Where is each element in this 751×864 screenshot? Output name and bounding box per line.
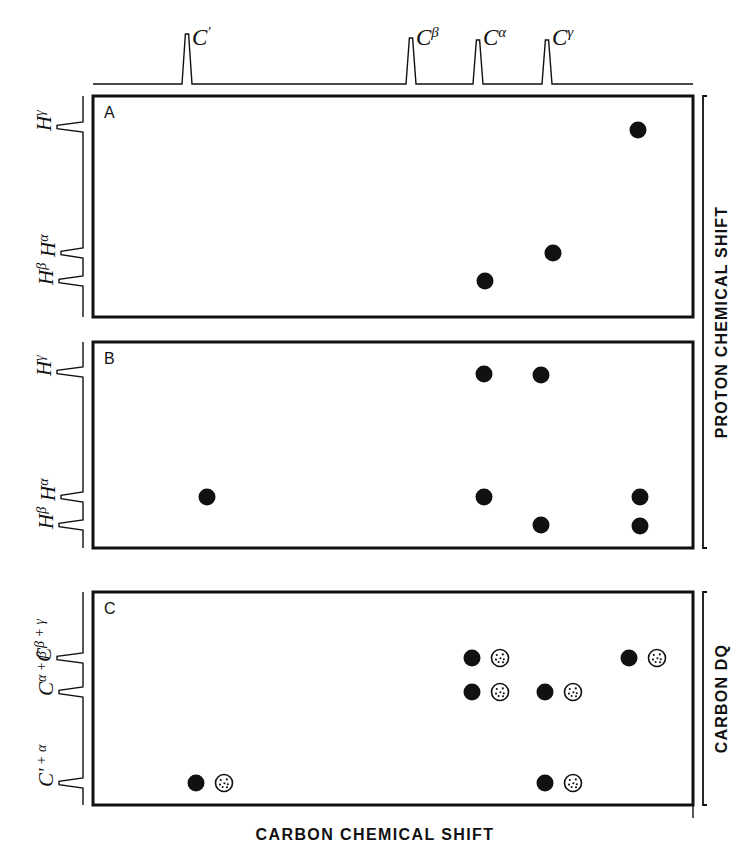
panel-C-crosspeak-5-filled	[464, 684, 481, 701]
panel-B-frame	[93, 342, 693, 548]
panel-C-crosspeak-10-stipple-dot	[226, 778, 228, 780]
panel-C-crosspeak-8-stippled	[565, 684, 582, 701]
panel-C-crosspeak-2-stipple-dot	[498, 661, 500, 663]
panel-B-crosspeak-1-filled	[476, 366, 493, 383]
panel-B-trace-label-2: Hα	[36, 478, 61, 502]
panel-C-crosspeak-4-stipple-dot	[656, 657, 658, 659]
panel-C-crosspeak-10-stipple-dot	[219, 784, 221, 786]
carbon-dq-axis-label-text: CARBON DQ	[713, 644, 730, 753]
panel-A-crosspeak-2-filled	[545, 245, 562, 262]
panel-B-trace-label-1: Hγ	[32, 355, 57, 377]
panel-C-crosspeak-12-stippled	[565, 775, 582, 792]
carbon-peak-label-3: Cα	[483, 24, 507, 50]
carbon-peak-label-4: Cγ	[552, 24, 574, 50]
panel-B: BHγHαHβ	[32, 342, 694, 548]
panel-A-crosspeak-3-filled	[477, 273, 494, 290]
panel-A-trace-label-1: Hγ	[32, 110, 57, 132]
proton-chemical-shift-axis-label-bracket	[703, 96, 707, 548]
panel-C-crosspeak-2-stipple-dot	[502, 661, 504, 663]
panel-C-crosspeak-2-stipple-dot	[495, 659, 497, 661]
panel-C-crosspeak-10-stippled	[216, 775, 233, 792]
panel-C-crosspeak-6-stipple-dot	[495, 693, 497, 695]
panel-C-crosspeak-4-stipple-dot	[655, 661, 657, 663]
carbon-chemical-shift-axis-label: CARBON CHEMICAL SHIFT	[256, 826, 495, 843]
nmr-figure: C′CβCαCγAHγHαHβBHγHαHβCCβ + γCα + βC' + …	[0, 0, 751, 864]
panel-B-letter: B	[104, 350, 115, 367]
panel-C-crosspeak-8-stipple-dot	[575, 695, 577, 697]
carbon-peak-label-text: Cγ	[552, 24, 574, 50]
panel-C-crosspeak-12-stipple-dot	[576, 783, 578, 785]
panel-C-crosspeak-8-stipple-dot	[568, 693, 570, 695]
panel-B-crosspeak-6-filled	[533, 517, 550, 534]
panel-C-crosspeak-10-stipple-dot	[226, 786, 228, 788]
panel-C-frame	[93, 592, 693, 805]
panel-C-crosspeak-12-stipple-dot	[575, 778, 577, 780]
panel-C-crosspeak-10-stipple-dot	[227, 783, 229, 785]
carbon-peak-label-text: Cα	[483, 24, 507, 50]
panel-C-crosspeak-7-filled	[537, 684, 554, 701]
panel-C-crosspeak-10-stipple-dot	[223, 782, 225, 784]
panel-C-crosspeak-11-filled	[537, 775, 554, 792]
panel-C-crosspeak-12-stipple-dot	[575, 786, 577, 788]
panel-A-crosspeak-1-filled	[630, 122, 647, 139]
panel-C-crosspeak-2-stipple-dot	[503, 658, 505, 660]
panel-C-crosspeak-10-stipple-dot	[220, 779, 222, 781]
panel-C-crosspeak-8-stipple-dot	[576, 692, 578, 694]
panel-B-trace-label-3: Hβ	[34, 507, 59, 530]
carbon-peak-label-text: C′	[192, 24, 211, 50]
panel-C-crosspeak-8-stipple-dot	[571, 695, 573, 697]
panel-C-letter: C	[104, 600, 116, 617]
panel-C-crosspeak-4-stippled	[649, 650, 666, 667]
panel-C-side-projection-trace	[57, 592, 83, 805]
panel-C-crosspeak-12-stipple-dot	[568, 784, 570, 786]
panel-C: CCβ + γCα + βC' + α	[32, 592, 694, 805]
carbon-projection-trace	[93, 34, 693, 84]
panel-C-crosspeak-10-stipple-dot	[222, 786, 224, 788]
panel-C-crosspeak-2-stippled	[492, 650, 509, 667]
panel-C-crosspeak-8-stipple-dot	[569, 688, 571, 690]
panel-C-crosspeak-6-stipple-dot	[502, 687, 504, 689]
panel-C-crosspeak-6-stipple-dot	[502, 695, 504, 697]
panel-C-trace-label-3: C' + α	[34, 744, 59, 787]
proton-chemical-shift-axis-label-text: PROTON CHEMICAL SHIFT	[713, 206, 730, 439]
panel-C-crosspeak-6-stipple-dot	[503, 692, 505, 694]
panel-C-crosspeak-6-stipple-dot	[496, 688, 498, 690]
panel-C-crosspeak-2-stipple-dot	[502, 653, 504, 655]
carbon-dq-axis-label: CARBON DQ	[703, 592, 730, 805]
panel-C-crosspeak-9-filled	[188, 775, 205, 792]
carbon-dq-axis-label-bracket	[703, 592, 707, 805]
panel-A: AHγHαHβ	[32, 96, 694, 317]
panel-C-crosspeak-2-stipple-dot	[499, 657, 501, 659]
panel-C-crosspeak-12-stipple-dot	[572, 782, 574, 784]
panel-B-crosspeak-5-filled	[632, 489, 649, 506]
panel-A-frame	[93, 96, 693, 317]
panel-C-crosspeak-8-stipple-dot	[572, 691, 574, 693]
carbon-peak-label-1: C′	[192, 24, 211, 50]
carbon-peak-label-2: Cβ	[416, 24, 439, 50]
panel-C-crosspeak-4-stipple-dot	[660, 658, 662, 660]
panel-B-crosspeak-7-filled	[632, 518, 649, 535]
panel-C-crosspeak-6-stipple-dot	[499, 691, 501, 693]
panel-C-crosspeak-4-stipple-dot	[659, 653, 661, 655]
proton-chemical-shift-axis-label: PROTON CHEMICAL SHIFT	[703, 96, 730, 548]
panel-C-crosspeak-12-stipple-dot	[571, 786, 573, 788]
spectra-canvas: C′CβCαCγAHγHαHβBHγHαHβCCβ + γCα + βC' + …	[0, 0, 751, 864]
panel-C-crosspeak-12-stipple-dot	[569, 779, 571, 781]
panel-C-crosspeak-6-stippled	[492, 684, 509, 701]
panel-C-crosspeak-4-stipple-dot	[653, 654, 655, 656]
panel-A-trace-label-3: Hβ	[34, 263, 59, 286]
panel-A-letter: A	[104, 104, 115, 121]
panel-B-crosspeak-2-filled	[533, 367, 550, 384]
panel-A-trace-label-2: Hα	[36, 234, 61, 258]
panel-C-crosspeak-4-stipple-dot	[659, 661, 661, 663]
carbon-peak-label-text: Cβ	[416, 24, 439, 50]
panel-C-crosspeak-1-filled	[464, 650, 481, 667]
panel-C-crosspeak-8-stipple-dot	[575, 687, 577, 689]
panel-C-crosspeak-2-stipple-dot	[496, 654, 498, 656]
panel-B-crosspeak-4-filled	[476, 489, 493, 506]
panel-B-crosspeak-3-filled	[199, 489, 216, 506]
panel-C-crosspeak-6-stipple-dot	[498, 695, 500, 697]
panel-C-crosspeak-3-filled	[621, 650, 638, 667]
panel-A-side-projection-trace	[57, 96, 83, 317]
panel-C-crosspeak-4-stipple-dot	[652, 659, 654, 661]
